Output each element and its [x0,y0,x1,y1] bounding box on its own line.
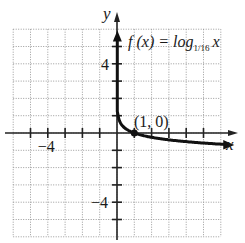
function-label-base: 1/16 [193,43,210,53]
point-annotation: (1, 0) [134,113,169,131]
x-axis-label: x [225,135,234,154]
function-label-arg: x [211,33,219,50]
x-tick-label: −4 [38,138,55,155]
function-label-prefix: f (x) = log [128,33,193,51]
y-tick-label: 4 [101,56,109,73]
y-axis-label: y [101,4,111,23]
log-graph: y x f (x) = log1/16x (1, 0) −44−4 [0,0,245,243]
y-tick-label: −4 [91,194,108,211]
function-label: f (x) = log1/16x [128,33,220,53]
curve-up-arrow-icon [113,31,122,42]
y-axis-arrow-icon [114,12,120,22]
point-1-0 [131,130,138,137]
